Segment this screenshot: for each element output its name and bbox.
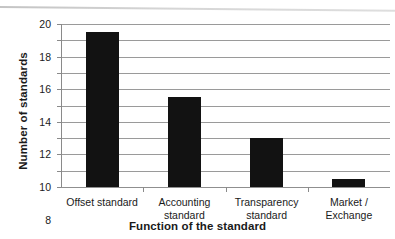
x-axis-tick [308, 187, 309, 192]
y-axis-tick: 4 [57, 154, 61, 155]
y-axis-title: Number of standards [17, 36, 29, 186]
y-axis-tick: 6 [57, 138, 61, 139]
y-axis-tick-label: 18 [39, 51, 51, 63]
y-axis-tick: 14 [57, 73, 61, 74]
y-axis-tick: 2 [57, 171, 61, 172]
y-axis-tick: 20 [57, 24, 61, 25]
y-axis-tick-label: 16 [39, 83, 51, 95]
y-axis-tick: 18 [57, 40, 61, 41]
bar [86, 32, 119, 187]
y-axis-tick-label: 20 [39, 18, 51, 30]
x-axis-tick [226, 187, 227, 192]
y-axis-tick: 12 [57, 89, 61, 90]
bar [250, 138, 283, 187]
scan-artifact-line [0, 6, 395, 12]
y-axis-tick: 0 [57, 187, 61, 188]
bar [168, 97, 201, 187]
x-axis-category-label: Transparency standard [224, 196, 310, 222]
y-axis-tick: 10 [57, 106, 61, 107]
x-axis-category-label: Accounting standard [141, 196, 227, 222]
gridline [61, 24, 390, 25]
y-axis-line [61, 24, 62, 187]
bar [332, 179, 365, 187]
y-axis-tick-label: 12 [39, 148, 51, 160]
y-axis-tick: 8 [57, 122, 61, 123]
x-axis-category-label: Market / Exchange [306, 196, 392, 222]
x-axis-tick [143, 187, 144, 192]
x-axis-title: Function of the standard [0, 220, 395, 232]
bar-chart-figure: Number of standards 02468101214161820 Of… [0, 0, 395, 239]
y-axis-tick: 16 [57, 57, 61, 58]
plot-area: 02468101214161820 Offset standardAccount… [61, 24, 390, 187]
y-axis-tick-label: 14 [39, 116, 51, 128]
y-axis-tick-label: 10 [39, 181, 51, 193]
x-axis-category-label: Offset standard [59, 196, 145, 209]
